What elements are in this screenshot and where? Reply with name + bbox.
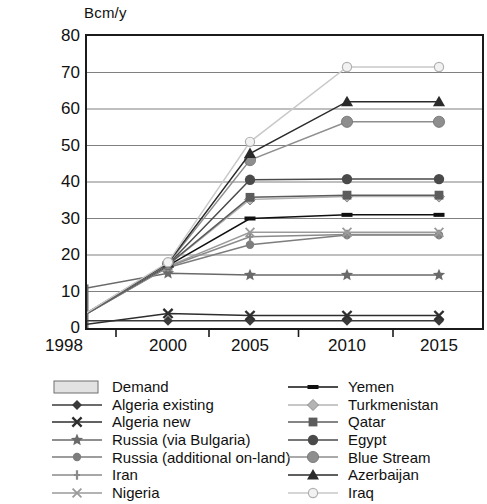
legend-item: Blue Stream	[282, 448, 438, 466]
diamond-icon	[46, 396, 108, 414]
legend-column-left: DemandAlgeria existingAlgeria newRussia …	[46, 378, 290, 501]
y-tick-30: 30	[4, 209, 80, 229]
demand-bar	[87, 285, 88, 328]
square-icon	[282, 413, 344, 431]
legend-item: Egypt	[282, 431, 438, 449]
chart-canvas	[87, 36, 482, 328]
y-tick-20: 20	[4, 245, 80, 265]
triangle-icon	[282, 466, 344, 484]
circle-open-icon	[282, 484, 344, 502]
series-qatar	[87, 191, 443, 327]
legend-label: Blue Stream	[344, 450, 431, 465]
y-tick-40: 40	[4, 172, 80, 192]
legend-item: Nigeria	[46, 484, 290, 502]
legend-item: Demand	[46, 378, 290, 396]
legend-item: Iran	[46, 466, 290, 484]
legend-label: Yemen	[344, 379, 394, 394]
legend-label: Algeria existing	[108, 397, 214, 412]
legend-label: Russia (via Bulgaria)	[108, 432, 250, 447]
legend-label: Algeria new	[108, 414, 190, 429]
legend-item: Azerbaijan	[282, 466, 438, 484]
legend-label: Iraq	[344, 485, 374, 500]
legend-item: Russia (additional on-land)	[46, 448, 290, 466]
plot-area	[85, 34, 484, 330]
x-tick-2000: 2000	[149, 336, 187, 356]
legend-label: Qatar	[344, 414, 386, 429]
y-tick-80: 80	[4, 26, 80, 46]
legend-item: Iraq	[282, 484, 438, 502]
legend-item: Qatar	[282, 413, 438, 431]
legend-item: Turkmenistan	[282, 396, 438, 414]
star-icon	[46, 431, 108, 449]
legend-label: Iran	[108, 467, 138, 482]
legend-item: Algeria new	[46, 413, 290, 431]
y-axis-tick-labels: 01020304050607080	[0, 34, 80, 330]
series-yemen	[87, 213, 445, 327]
chart-screenshot: Bcm/y 01020304050607080 1998200020052010…	[0, 0, 487, 504]
chart-legend: DemandAlgeria existingAlgeria newRussia …	[0, 378, 487, 504]
legend-label: Demand	[108, 379, 169, 394]
legend-item: Yemen	[282, 378, 438, 396]
x-tick-2015: 2015	[420, 336, 458, 356]
x-tick-2010: 2010	[328, 336, 366, 356]
cross-icon	[46, 413, 108, 431]
legend-label: Azerbaijan	[344, 467, 419, 482]
y-tick-50: 50	[4, 136, 80, 156]
series-algeria-new	[87, 309, 444, 327]
circle-grey-icon	[282, 448, 344, 466]
dash-icon	[282, 378, 344, 396]
x-tick-1998: 1998	[45, 336, 83, 356]
y-tick-70: 70	[4, 63, 80, 83]
y-axis-title: Bcm/y	[84, 4, 127, 21]
x-tick-2005: 2005	[231, 336, 269, 356]
y-tick-10: 10	[4, 282, 80, 302]
series-blue-stream	[87, 116, 445, 327]
series-turkmenistan	[87, 191, 445, 327]
circle-dark-icon	[282, 431, 344, 449]
legend-label: Egypt	[344, 432, 386, 447]
legend-label: Turkmenistan	[344, 397, 438, 412]
legend-label: Nigeria	[108, 485, 160, 500]
diamond-open-icon	[282, 396, 344, 414]
circle-icon	[46, 448, 108, 466]
cross-thin-icon	[46, 484, 108, 502]
x-axis-tick-labels: 19982000200520102015	[0, 336, 487, 362]
plus-icon	[46, 466, 108, 484]
legend-column-right: YemenTurkmenistanQatarEgyptBlue StreamAz…	[282, 378, 438, 501]
bar-swatch-icon	[46, 378, 108, 396]
legend-item: Russia (via Bulgaria)	[46, 431, 290, 449]
legend-label: Russia (additional on-land)	[108, 450, 290, 465]
y-tick-60: 60	[4, 99, 80, 119]
legend-item: Algeria existing	[46, 396, 290, 414]
